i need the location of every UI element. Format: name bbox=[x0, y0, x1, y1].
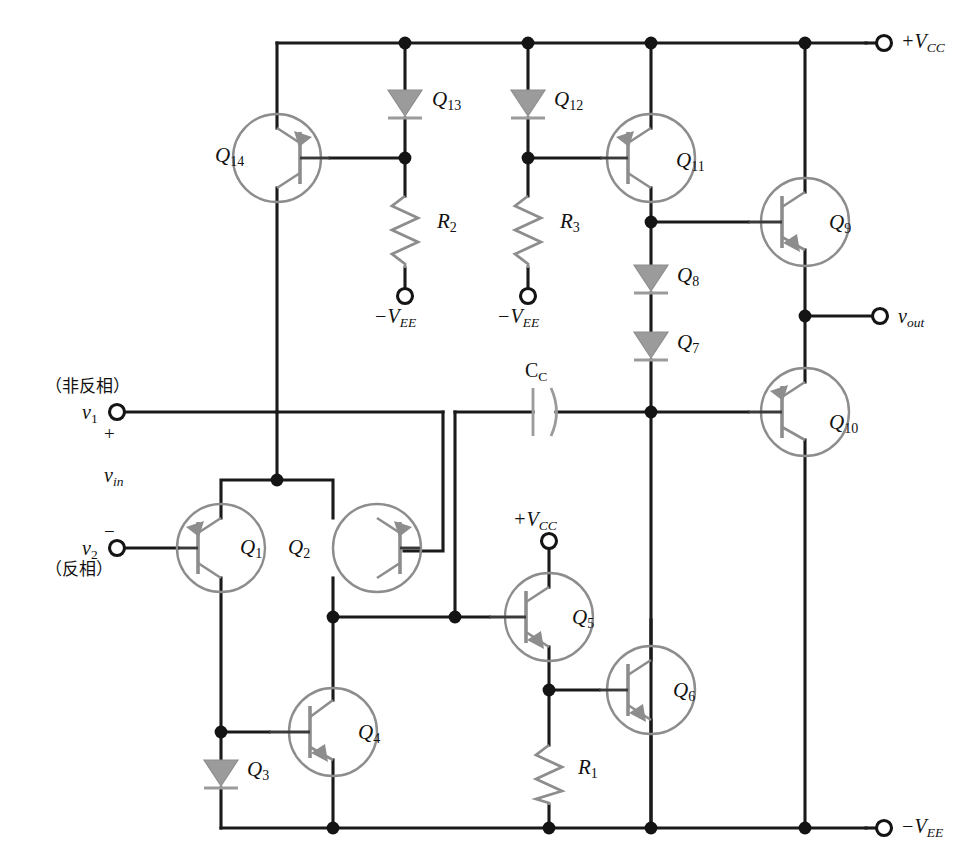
label-q2: Q2 bbox=[288, 537, 310, 561]
label-q5: Q5 bbox=[572, 607, 594, 631]
terminal-vee-r3[interactable] bbox=[521, 289, 536, 304]
label-vee-r3: −VEE bbox=[497, 306, 539, 329]
terminal-vcc-q5[interactable] bbox=[542, 534, 557, 549]
label-cc: CC bbox=[525, 360, 547, 383]
transistor-q2[interactable] bbox=[333, 504, 421, 592]
label-vcc-q5: +VCC bbox=[513, 509, 557, 532]
label-vin: vin bbox=[104, 465, 123, 488]
label-vee-bottom: −VEE bbox=[901, 816, 943, 839]
label-q9: Q9 bbox=[829, 212, 851, 236]
junction-dots bbox=[215, 37, 812, 835]
label-q6: Q6 bbox=[673, 680, 695, 704]
circuit-schematic: +VCC −VEE −VEE −VEE +VCC （非反相） v1 + vin … bbox=[0, 0, 979, 868]
label-inverting-cn: （反相） bbox=[45, 561, 113, 578]
label-r3: R3 bbox=[560, 211, 580, 235]
label-q4: Q4 bbox=[358, 722, 380, 746]
terminal-vcc-top[interactable] bbox=[877, 36, 892, 51]
resistor-r2[interactable] bbox=[392, 196, 418, 268]
label-v1: v1 bbox=[82, 402, 98, 425]
label-vout: vout bbox=[898, 306, 924, 329]
label-vee-r2: −VEE bbox=[374, 306, 416, 329]
terminal-vout[interactable] bbox=[873, 309, 888, 324]
label-plus-sign: + bbox=[104, 424, 115, 443]
label-minus-sign: − bbox=[104, 522, 115, 541]
terminal-vee-r2[interactable] bbox=[398, 289, 413, 304]
wire-q1-emitter bbox=[221, 480, 277, 518]
label-q1: Q1 bbox=[240, 537, 262, 561]
wire-q2-emitter bbox=[277, 480, 333, 518]
label-q3: Q3 bbox=[247, 759, 269, 783]
label-q12: Q12 bbox=[554, 89, 584, 113]
diode-q13[interactable] bbox=[388, 90, 422, 118]
resistor-r1[interactable] bbox=[536, 745, 562, 805]
capacitor-cc[interactable] bbox=[533, 388, 557, 436]
diode-q3[interactable] bbox=[204, 760, 238, 788]
label-noninverting-cn: （非反相） bbox=[45, 378, 130, 395]
terminal-v2[interactable] bbox=[110, 541, 125, 556]
resistor-r3[interactable] bbox=[515, 196, 541, 268]
label-q11: Q11 bbox=[676, 150, 705, 174]
label-r1: R1 bbox=[578, 757, 598, 781]
diode-q8[interactable] bbox=[634, 265, 668, 293]
diode-q12[interactable] bbox=[511, 90, 545, 118]
label-r2: R2 bbox=[437, 211, 457, 235]
label-q8: Q8 bbox=[677, 265, 699, 289]
terminal-v1[interactable] bbox=[110, 405, 125, 420]
label-q7: Q7 bbox=[677, 332, 699, 356]
diode-q7[interactable] bbox=[634, 332, 668, 360]
wire-v1-to-q2-base bbox=[404, 412, 443, 551]
label-v2: v2 bbox=[82, 538, 98, 561]
terminal-vee-bottom[interactable] bbox=[877, 821, 892, 836]
label-q10: Q10 bbox=[829, 412, 859, 436]
label-q14: Q14 bbox=[215, 145, 245, 169]
label-vcc-top: +VCC bbox=[901, 31, 945, 54]
transistor-q14[interactable] bbox=[233, 114, 330, 202]
label-q13: Q13 bbox=[432, 89, 462, 113]
